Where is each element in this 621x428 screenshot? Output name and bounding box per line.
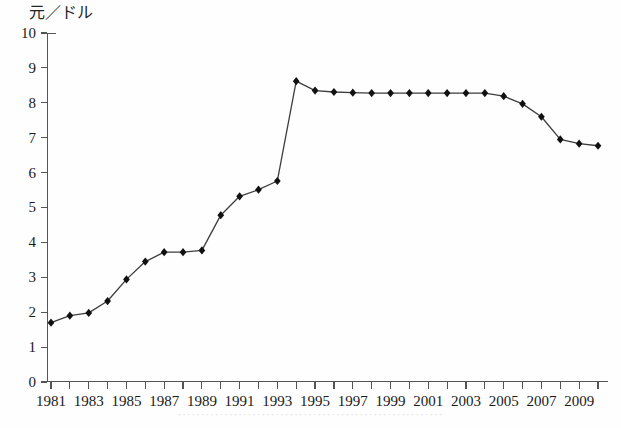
y-axis-tick-label: 9	[29, 60, 37, 75]
data-point-marker	[425, 89, 432, 97]
series-line-path	[51, 81, 598, 323]
x-axis-tick-label: 1983	[74, 393, 104, 409]
data-point-marker	[67, 312, 74, 320]
data-point-marker	[255, 186, 262, 194]
y-axis-tick-label: 0	[29, 374, 37, 389]
figure-caption-faint: ········································…	[0, 408, 621, 420]
x-axis-tick	[352, 382, 353, 389]
x-axis-tick	[239, 382, 240, 389]
x-axis-tick-label: 1991	[225, 393, 255, 409]
x-axis-tick-label: 1987	[149, 393, 179, 409]
data-point-marker	[274, 177, 281, 185]
x-axis-tick	[126, 382, 127, 389]
data-point-marker	[48, 319, 55, 327]
x-axis-tick-label: 2007	[526, 393, 556, 409]
x-axis-tick	[220, 382, 221, 389]
x-axis-tick	[541, 382, 542, 389]
y-axis-tick-label: 7	[29, 130, 37, 145]
x-axis-tick	[50, 382, 51, 389]
y-axis-label: 元／ドル	[29, 4, 93, 22]
data-point-marker	[463, 89, 470, 97]
x-axis-tick	[164, 382, 165, 389]
data-point-marker	[444, 89, 451, 97]
x-axis-tick-label: 2001	[413, 393, 443, 409]
x-axis-tick-label: 1995	[300, 393, 330, 409]
x-axis-tick	[409, 382, 410, 389]
data-point-marker	[331, 88, 338, 96]
data-point-marker	[85, 309, 92, 317]
data-point-marker	[312, 86, 319, 94]
x-axis-tick	[428, 382, 429, 389]
x-axis-tick	[333, 382, 334, 389]
data-point-marker	[481, 89, 488, 97]
data-point-marker	[576, 140, 583, 148]
chart-figure: 元／ドル 012345678910 1981198319851987198919…	[0, 0, 621, 428]
data-point-marker	[161, 248, 168, 256]
x-axis-tick-label: 1999	[376, 393, 406, 409]
x-axis-tick-label: 2005	[489, 393, 519, 409]
x-axis-tick	[484, 382, 485, 389]
y-axis-tick-label: 8	[29, 95, 37, 110]
x-axis-tick-label: 1993	[262, 393, 292, 409]
x-axis-tick	[296, 382, 297, 389]
y-axis-tick-label: 10	[21, 26, 36, 41]
plot-area: 012345678910 198119831985198719891991199…	[47, 33, 608, 382]
x-axis-tick	[182, 382, 183, 389]
data-point-marker	[349, 89, 356, 97]
x-axis-tick	[447, 382, 448, 389]
data-point-marker	[406, 89, 413, 97]
x-axis-tick	[579, 382, 580, 389]
y-axis-tick-label: 6	[29, 165, 37, 180]
x-axis-tick	[145, 382, 146, 389]
x-axis-tick	[560, 382, 561, 389]
x-axis-tick	[371, 382, 372, 389]
x-axis-tick	[314, 382, 315, 389]
x-axis-tick-label: 1981	[36, 393, 66, 409]
y-axis-tick-label: 5	[29, 200, 37, 215]
x-axis-tick	[503, 382, 504, 389]
x-axis-tick	[69, 382, 70, 389]
y-axis-tick-label: 1	[29, 340, 37, 355]
y-axis-tick-label: 2	[29, 305, 37, 320]
x-axis-tick	[390, 382, 391, 389]
x-axis-tick-label: 2009	[564, 393, 594, 409]
data-point-marker	[368, 89, 375, 97]
data-point-marker	[180, 248, 187, 256]
x-axis-tick	[258, 382, 259, 389]
x-axis-tick-label: 2003	[451, 393, 481, 409]
x-axis-tick	[597, 382, 598, 389]
series-markers-group	[48, 77, 602, 327]
data-point-marker	[595, 142, 602, 150]
y-axis-tick-label: 3	[29, 270, 37, 285]
x-axis-tick-label: 1989	[187, 393, 217, 409]
data-series-layer	[47, 33, 608, 382]
x-axis-tick	[277, 382, 278, 389]
data-point-marker	[199, 246, 206, 254]
data-point-marker	[293, 77, 300, 85]
x-axis-tick	[107, 382, 108, 389]
y-axis-tick-label: 4	[29, 235, 37, 250]
x-axis-tick	[465, 382, 466, 389]
x-axis-tick-label: 1997	[338, 393, 368, 409]
data-point-marker	[387, 89, 394, 97]
x-axis-tick-label: 1985	[111, 393, 141, 409]
x-axis-tick	[522, 382, 523, 389]
x-axis-tick	[88, 382, 89, 389]
x-axis-tick	[201, 382, 202, 389]
data-point-marker	[500, 92, 507, 100]
data-point-marker	[519, 100, 526, 108]
